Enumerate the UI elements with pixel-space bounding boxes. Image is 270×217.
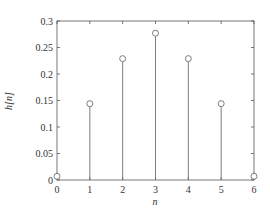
x-tick-label: 5 [219, 184, 224, 195]
y-tick-label: 0.1 [41, 122, 54, 133]
x-tick-label: 1 [87, 184, 92, 195]
stem-marker-circle [54, 173, 60, 179]
y-tick-label: 0.3 [41, 16, 54, 27]
stem [87, 101, 93, 180]
stem [218, 101, 224, 180]
y-tick-label: 0.25 [36, 42, 54, 53]
stem-marker-circle [120, 56, 126, 62]
stem [153, 30, 159, 180]
stem [185, 56, 191, 180]
stem [120, 56, 126, 180]
stem-marker-circle [87, 101, 93, 107]
stem-marker-circle [153, 30, 159, 36]
stem-plot: 00.050.10.150.20.250.3 0123456 n h[n] [0, 0, 270, 217]
x-tick-label: 4 [186, 184, 191, 195]
x-tick-label: 6 [252, 184, 257, 195]
y-axis-label: h[n] [3, 92, 14, 110]
y-tick-label: 0 [48, 175, 53, 186]
y-tick-label: 0.2 [41, 69, 54, 80]
y-tick-label: 0.05 [36, 148, 54, 159]
stem [54, 173, 60, 180]
x-tick-label: 2 [120, 184, 125, 195]
stem-marker-circle [251, 173, 257, 179]
y-tick-label: 0.15 [36, 95, 54, 106]
x-tick-label: 0 [55, 184, 60, 195]
stem [251, 173, 257, 180]
data-series [54, 30, 257, 180]
stem-marker-circle [185, 56, 191, 62]
x-axis-label: n [153, 196, 158, 207]
stem-marker-circle [218, 101, 224, 107]
x-tick-label: 3 [153, 184, 158, 195]
